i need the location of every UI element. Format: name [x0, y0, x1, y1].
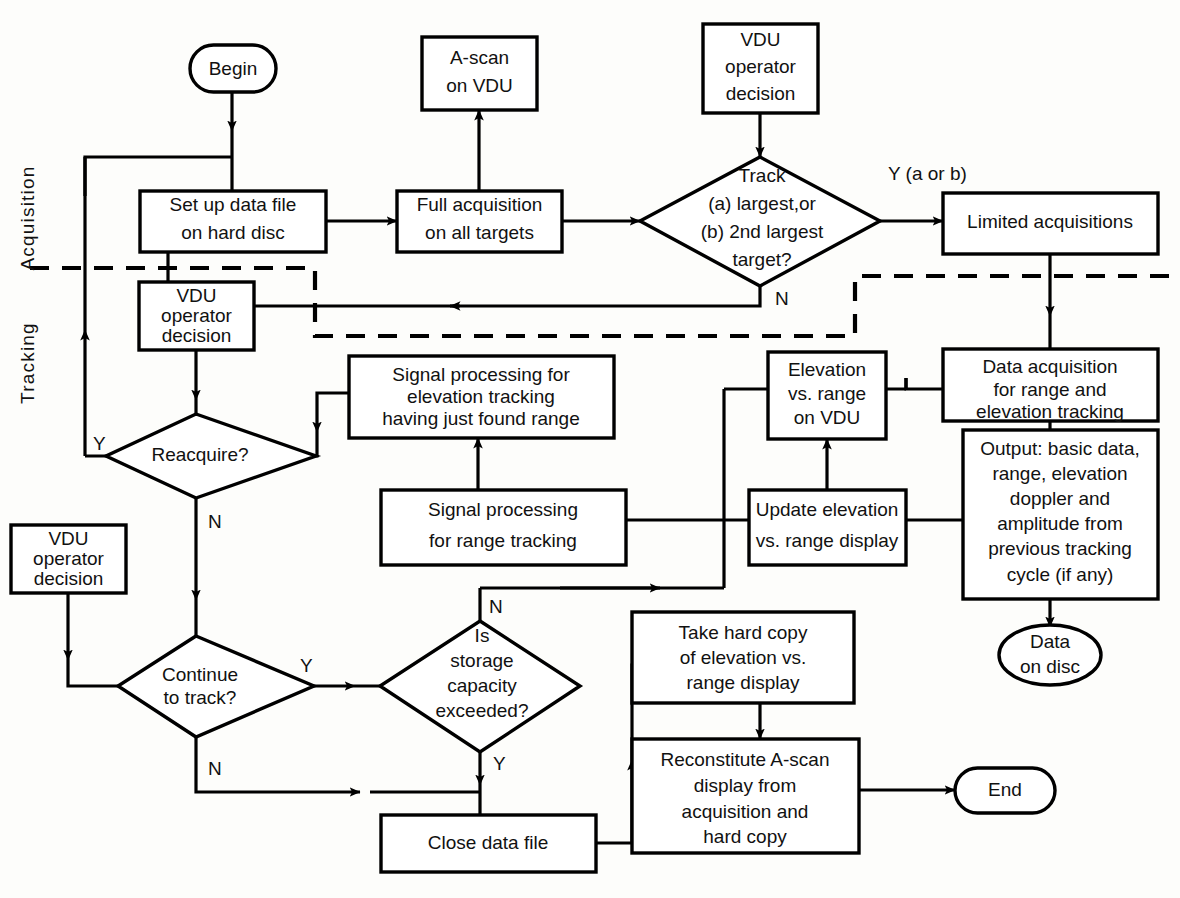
node-reconstitute-line-0: Reconstitute A-scan	[661, 749, 830, 770]
edge-label-storage-yes: Y	[493, 753, 506, 774]
node-sig-proc-range-line-0: Signal processing	[428, 499, 578, 520]
node-output-basic[interactable]: Output: basic data, range, elevation dop…	[963, 430, 1158, 599]
node-update-elev[interactable]: Update elevation vs. range display	[749, 490, 906, 565]
edge-label-reacquire-yes: Y	[93, 433, 106, 454]
node-full-acquisition[interactable]: Full acquisition on all targets	[397, 191, 562, 252]
node-reconstitute[interactable]: Reconstitute A-scan display from acquisi…	[632, 739, 859, 853]
node-track-decision-line-1: (a) largest,or	[708, 193, 816, 214]
node-sig-proc-range[interactable]: Signal processing for range tracking	[381, 490, 626, 565]
node-elev-vs-range-vdu-line-0: Elevation	[788, 359, 866, 380]
node-storage-capacity[interactable]: Is storage capacity exceeded?	[380, 621, 580, 752]
node-reacquire-line-0: Reacquire?	[151, 444, 248, 465]
node-vdu-decision-2-line-0: VDU	[176, 285, 216, 306]
node-data-acquisition-line-2: elevation tracking	[976, 401, 1124, 422]
flowchart-canvas: Begin Set up data file on hard disc A-sc…	[0, 0, 1180, 898]
node-take-hard-copy-line-2: range display	[686, 672, 800, 693]
node-output-basic-line-1: range, elevation	[992, 463, 1127, 484]
node-vdu-decision-1-line-0: VDU	[740, 29, 780, 50]
flowchart-svg: Begin Set up data file on hard disc A-sc…	[0, 0, 1180, 898]
node-sig-proc-elev-line-0: Signal processing for	[392, 364, 570, 385]
node-data-on-disc-line-1: on disc	[1020, 656, 1080, 677]
node-data-acquisition[interactable]: Data acquisition for range and elevation…	[943, 349, 1158, 422]
edge-label-continue-yes: Y	[300, 655, 313, 676]
node-data-on-disc[interactable]: Data on disc	[999, 625, 1101, 685]
node-a-scan-vdu[interactable]: A-scan on VDU	[422, 37, 537, 110]
node-end-line-0: End	[988, 779, 1022, 800]
node-output-basic-line-2: doppler and	[1010, 488, 1110, 509]
node-data-on-disc-line-0: Data	[1030, 631, 1071, 652]
node-output-basic-line-5: cycle (if any)	[1007, 564, 1114, 585]
node-take-hard-copy[interactable]: Take hard copy of elevation vs. range di…	[632, 612, 854, 703]
node-storage-capacity-line-3: exceeded?	[436, 700, 529, 721]
edge-label-continue-no: N	[208, 758, 222, 779]
node-data-acquisition-line-1: for range and	[993, 379, 1106, 400]
node-continue-track[interactable]: Continue to track?	[118, 636, 314, 737]
node-take-hard-copy-line-1: of elevation vs.	[680, 647, 807, 668]
node-vdu-decision-3[interactable]: VDU operator decision	[11, 525, 126, 593]
node-limited-acq[interactable]: Limited acquisitions	[943, 193, 1158, 254]
node-reconstitute-line-2: acquisition and	[682, 801, 809, 822]
node-track-decision[interactable]: Track (a) largest,or (b) 2nd largest tar…	[640, 157, 880, 286]
node-continue-track-line-0: Continue	[162, 664, 238, 685]
node-update-elev-line-1: vs. range display	[756, 530, 899, 551]
node-end[interactable]: End	[955, 768, 1055, 813]
node-elev-vs-range-vdu-line-1: vs. range	[788, 383, 866, 404]
node-vdu-decision-2-line-2: decision	[162, 325, 232, 346]
node-close-data-file-line-0: Close data file	[428, 832, 548, 853]
node-full-acquisition-line-1: on all targets	[425, 222, 534, 243]
node-full-acquisition-line-0: Full acquisition	[417, 194, 543, 215]
node-track-decision-line-2: (b) 2nd largest	[701, 221, 824, 242]
node-storage-capacity-line-2: capacity	[447, 675, 517, 696]
node-sig-proc-elev[interactable]: Signal processing for elevation tracking…	[349, 356, 614, 438]
node-output-basic-line-4: previous tracking	[988, 538, 1132, 559]
node-storage-capacity-line-1: storage	[450, 650, 513, 671]
node-setup-data-file-line-1: on hard disc	[181, 222, 285, 243]
edge-label-track-no: N	[775, 288, 789, 309]
node-reacquire[interactable]: Reacquire?	[106, 414, 316, 498]
node-begin-line-0: Begin	[209, 58, 258, 79]
section-label-acquisition: Acquisition	[17, 165, 38, 270]
edge-label-storage-no: N	[489, 596, 503, 617]
edge-label-reacquire-no: N	[208, 511, 222, 532]
node-reconstitute-line-3: hard copy	[703, 826, 787, 847]
node-vdu-decision-3-line-1: operator	[33, 548, 104, 569]
node-vdu-decision-3-line-0: VDU	[48, 528, 88, 549]
node-a-scan-vdu-line-1: on VDU	[446, 75, 513, 96]
node-track-decision-line-3: target?	[732, 249, 791, 270]
node-continue-track-line-1: to track?	[164, 687, 237, 708]
node-sig-proc-elev-line-2: having just found range	[382, 408, 580, 429]
node-limited-acq-line-0: Limited acquisitions	[967, 211, 1133, 232]
edge-label-track-yes: Y (a or b)	[888, 163, 967, 184]
node-track-decision-line-0: Track	[739, 165, 786, 186]
node-a-scan-vdu-line-0: A-scan	[450, 47, 509, 68]
section-label-tracking: Tracking	[17, 322, 38, 404]
node-vdu-decision-1[interactable]: VDU operator decision	[703, 24, 818, 113]
node-begin[interactable]: Begin	[190, 45, 276, 92]
node-sig-proc-elev-line-1: elevation tracking	[407, 386, 555, 407]
node-vdu-decision-1-line-2: decision	[726, 83, 796, 104]
node-data-acquisition-line-0: Data acquisition	[982, 356, 1117, 377]
node-vdu-decision-2-line-1: operator	[161, 305, 232, 326]
node-reconstitute-line-1: display from	[694, 775, 796, 796]
node-elev-vs-range-vdu-line-2: on VDU	[794, 407, 861, 428]
node-setup-data-file[interactable]: Set up data file on hard disc	[140, 191, 326, 252]
node-take-hard-copy-line-0: Take hard copy	[679, 622, 808, 643]
node-storage-capacity-line-0: Is	[475, 625, 490, 646]
node-elev-vs-range-vdu[interactable]: Elevation vs. range on VDU	[768, 352, 886, 439]
node-vdu-decision-1-line-1: operator	[725, 56, 796, 77]
node-close-data-file[interactable]: Close data file	[381, 815, 596, 872]
node-vdu-decision-3-line-2: decision	[34, 568, 104, 589]
node-sig-proc-range-line-1: for range tracking	[429, 530, 577, 551]
node-setup-data-file-line-0: Set up data file	[170, 194, 297, 215]
node-output-basic-line-0: Output: basic data,	[980, 438, 1140, 459]
node-update-elev-line-0: Update elevation	[756, 499, 899, 520]
node-vdu-decision-2[interactable]: VDU operator decision	[139, 282, 254, 350]
node-output-basic-line-3: amplitude from	[997, 513, 1123, 534]
